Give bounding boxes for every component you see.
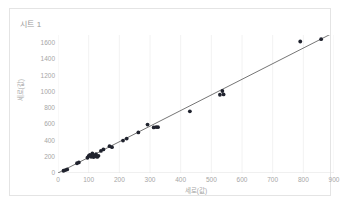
y-axis-tick-label: 1000 (41, 89, 55, 96)
y-axis-tick-label: 1200 (41, 72, 55, 79)
trendline (58, 35, 331, 173)
data-point (298, 40, 302, 44)
x-axis-tick-label: 900 (329, 177, 340, 184)
y-axis-tick-label: 200 (44, 154, 55, 161)
data-point (218, 93, 222, 97)
y-axis-tick-label: 1600 (41, 40, 55, 47)
data-point (77, 161, 81, 165)
data-point (136, 131, 140, 135)
x-axis-tick-label: 0 (56, 177, 60, 184)
scatter-plot-svg (58, 35, 334, 173)
x-axis-tick-label: 300 (145, 177, 156, 184)
data-point (188, 109, 192, 113)
y-axis-tick-label: 800 (44, 105, 55, 112)
data-point (156, 125, 160, 129)
y-axis-tick-label: 400 (44, 137, 55, 144)
data-point (222, 93, 226, 97)
data-point (65, 168, 69, 172)
scatter-plot-area (58, 35, 334, 173)
x-axis-tick-label: 600 (237, 177, 248, 184)
x-axis-tick-label: 700 (267, 177, 278, 184)
data-point (110, 145, 114, 149)
x-axis-tick-label: 200 (114, 177, 125, 184)
chart-title: 시트 1 (20, 18, 41, 29)
data-point (97, 154, 101, 158)
chart-container: 시트 1 세로(값) 02004006008001000120014001600… (9, 8, 331, 196)
x-axis-tick-label: 800 (298, 177, 309, 184)
x-axis-tick-label: 500 (206, 177, 217, 184)
x-axis-tick-label: 100 (83, 177, 94, 184)
data-point (220, 89, 224, 93)
data-point (125, 137, 129, 141)
data-point (121, 139, 125, 143)
x-axis-title: 세로(값) (58, 188, 334, 195)
data-point (319, 37, 323, 41)
y-axis-tick-label: 0 (51, 170, 55, 177)
data-point (146, 123, 150, 127)
data-point (101, 148, 105, 152)
y-axis-tick-labels: 02004006008001000120014001600 (24, 35, 55, 173)
x-axis-tick-label: 400 (175, 177, 186, 184)
y-axis-tick-label: 600 (44, 121, 55, 128)
y-axis-tick-label: 1400 (41, 56, 55, 63)
